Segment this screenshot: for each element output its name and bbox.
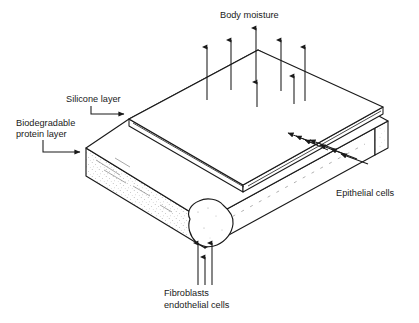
label-epithelial-cells: Epithelial cells <box>336 188 395 198</box>
diagram-root: Body moisture Silicone layer Biodegradab… <box>0 0 419 323</box>
fibroblast-arrow-group <box>198 243 212 285</box>
artificial-skin-diagram: Body moisture Silicone layer Biodegradab… <box>0 0 419 323</box>
label-body-moisture: Body moisture <box>220 10 279 20</box>
label-silicone-layer: Silicone layer <box>66 94 121 104</box>
label-fibroblasts-line2: endothelial cells <box>164 300 230 310</box>
biodegradable-layer-leader <box>43 140 80 152</box>
label-biodegradable-line2: protein layer <box>16 129 67 139</box>
slab-body <box>86 50 388 248</box>
label-biodegradable-line1: Biodegradable <box>16 118 75 128</box>
silicone-layer-leader <box>91 106 124 114</box>
label-fibroblasts-line1: Fibroblasts <box>164 288 209 298</box>
